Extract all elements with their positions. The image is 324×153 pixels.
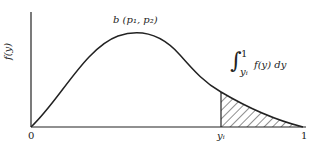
shaded-tail-area	[221, 92, 303, 127]
integral-lower-limit: yᵢ	[240, 66, 248, 77]
x-tick-one: 1	[301, 130, 307, 141]
y-axis-label: f(y)	[2, 43, 13, 60]
x-tick-origin: 0	[28, 130, 34, 141]
x-tick-yi: yᵢ	[217, 130, 225, 141]
integral-expression: ∫ 1 yᵢ f(y) dy	[230, 52, 320, 82]
integrand: f(y) dy	[254, 59, 286, 70]
curve-label: b (p₁, p₂)	[113, 14, 158, 25]
integral-upper-limit: 1	[241, 48, 247, 59]
